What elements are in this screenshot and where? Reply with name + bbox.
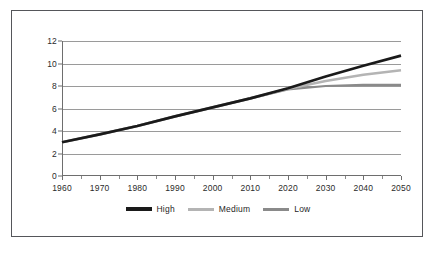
y-tick-label: 4: [52, 126, 57, 136]
x-tick-label: 2000: [203, 183, 223, 193]
x-tick-label: 1980: [127, 183, 147, 193]
plot-area: 024681012 196019701980199020002010202020…: [62, 41, 401, 176]
legend-label: Low: [294, 204, 310, 214]
x-tick-mark: [288, 176, 289, 180]
x-tick-mark: [175, 176, 176, 180]
x-tick-mark: [213, 176, 214, 180]
x-tick-label: 1990: [165, 183, 185, 193]
x-tick-mark-minor: [382, 176, 383, 179]
x-tick-label: 2050: [391, 183, 411, 193]
x-tick-label: 2040: [353, 183, 373, 193]
legend-swatch-icon: [126, 207, 152, 211]
x-tick-mark-minor: [119, 176, 120, 179]
legend-item-medium[interactable]: Medium: [188, 204, 250, 214]
legend-item-low[interactable]: Low: [263, 204, 310, 214]
legend-swatch-icon: [188, 208, 214, 211]
plot-wrapper: 024681012 196019701980199020002010202020…: [12, 11, 424, 238]
figure-border: 024681012 196019701980199020002010202020…: [11, 10, 423, 237]
legend-label: High: [157, 204, 175, 214]
y-tick-label: 6: [52, 104, 57, 114]
series-line-low: [62, 85, 401, 142]
x-tick-mark-minor: [232, 176, 233, 179]
legend-item-high[interactable]: High: [126, 204, 175, 214]
series-line-high: [62, 56, 401, 143]
x-tick-mark-minor: [194, 176, 195, 179]
x-tick-mark: [62, 176, 63, 180]
x-tick-label: 2030: [316, 183, 336, 193]
legend-swatch-icon: [263, 208, 289, 211]
x-tick-mark: [401, 176, 402, 180]
x-tick-label: 1960: [52, 183, 72, 193]
x-tick-label: 1970: [90, 183, 110, 193]
x-tick-mark-minor: [307, 176, 308, 179]
x-tick-mark: [250, 176, 251, 180]
series-lines: [62, 41, 401, 176]
y-tick-label: 8: [52, 81, 57, 91]
y-tick-label: 2: [52, 149, 57, 159]
x-tick-mark-minor: [156, 176, 157, 179]
x-tick-mark: [137, 176, 138, 180]
chart-legend: HighMediumLow: [12, 204, 424, 214]
legend-label: Medium: [219, 204, 250, 214]
x-tick-mark-minor: [81, 176, 82, 179]
chart-figure: 024681012 196019701980199020002010202020…: [0, 0, 435, 257]
x-tick-mark-minor: [345, 176, 346, 179]
x-tick-label: 2020: [278, 183, 298, 193]
x-tick-label: 2010: [240, 183, 260, 193]
x-tick-mark: [100, 176, 101, 180]
y-tick-label: 12: [47, 36, 57, 46]
y-tick-label: 0: [52, 171, 57, 181]
x-tick-mark-minor: [269, 176, 270, 179]
y-tick-label: 10: [47, 59, 57, 69]
x-tick-mark: [363, 176, 364, 180]
x-tick-mark: [326, 176, 327, 180]
